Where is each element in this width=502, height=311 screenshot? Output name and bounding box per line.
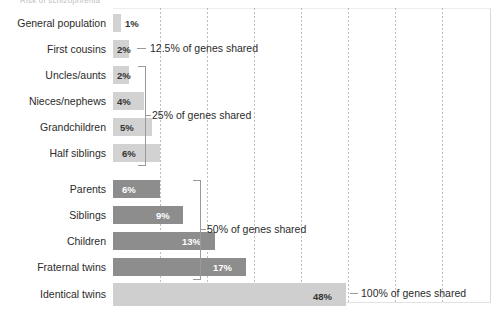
bar-value-label: 9% — [156, 206, 170, 224]
category-label: Fraternal twins — [0, 254, 106, 280]
bar-value-label: 6% — [122, 144, 136, 162]
bracket-25-stub — [145, 115, 151, 116]
bar-value-label: 6% — [122, 180, 136, 198]
bar — [113, 283, 346, 306]
category-label: General population — [0, 10, 106, 36]
category-label: Uncles/aunts — [0, 62, 106, 88]
annotation-connector-12-5 — [137, 48, 146, 49]
annotation-12-5-percent: 12.5% of genes shared — [150, 41, 258, 55]
annotation-50-percent: 50% of genes shared — [207, 222, 306, 236]
bar-row-half-siblings: Half siblings 6% — [0, 140, 502, 166]
bar — [113, 144, 160, 162]
bracket-50-stub — [200, 229, 206, 230]
bar-value-label: 2% — [117, 40, 131, 58]
bar-value-label: 17% — [213, 258, 232, 276]
category-label: Grandchildren — [0, 114, 106, 140]
bar-row-fraternal-twins: Fraternal twins 17% — [0, 254, 502, 280]
category-label: Identical twins — [0, 281, 106, 307]
annotation-connector-100 — [350, 293, 358, 294]
bar — [113, 206, 183, 224]
bar-row-uncles-aunts: Uncles/aunts 2% — [0, 62, 502, 88]
bar-value-label: 5% — [120, 118, 134, 136]
bar-row-general-population: General population 1% — [0, 10, 502, 36]
bar-row-parents: Parents 6% — [0, 176, 502, 202]
schizophrenia-risk-chart: Risk of schizophrenia General population… — [0, 0, 502, 311]
bar — [113, 180, 160, 198]
bar-value-label: 48% — [313, 287, 332, 305]
bar-value-label: 4% — [117, 92, 131, 110]
bar-value-label: 1% — [125, 14, 139, 32]
category-label: Children — [0, 228, 106, 254]
category-label: Nieces/nephews — [0, 88, 106, 114]
bar — [113, 14, 121, 32]
category-label: First cousins — [0, 36, 106, 62]
category-label: Siblings — [0, 202, 106, 228]
bracket-50-percent — [193, 180, 201, 280]
bracket-25-percent — [138, 66, 146, 166]
annotation-25-percent: 25% of genes shared — [152, 108, 251, 122]
annotation-100-percent: 100% of genes shared — [361, 286, 466, 300]
bar-value-label: 2% — [117, 66, 131, 84]
category-label: Parents — [0, 176, 106, 202]
chart-title: Risk of schizophrenia — [20, 0, 100, 5]
category-label: Half siblings — [0, 140, 106, 166]
